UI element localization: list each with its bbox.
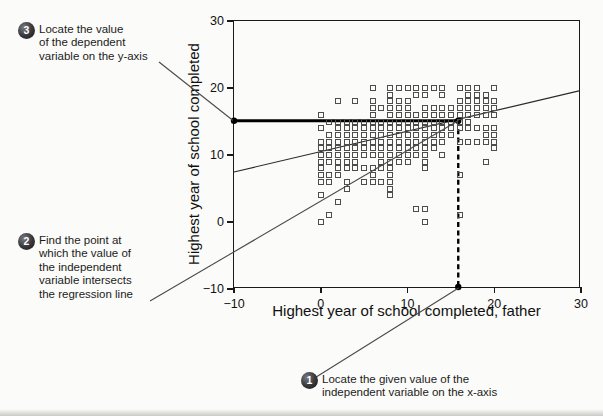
scatter-point [457, 172, 463, 178]
scatter-point [448, 119, 454, 125]
scatter-point [405, 85, 411, 91]
step-3-text: Locate the value of the dependent variab… [39, 22, 148, 63]
scatter-point [318, 172, 324, 178]
scatter-point [335, 139, 341, 145]
scatter-point [431, 105, 437, 111]
step-3-line-2: of the dependent [39, 36, 148, 49]
scatter-point [361, 165, 367, 171]
scatter-point [491, 125, 497, 131]
scatter-point [370, 145, 376, 151]
scatter-point [352, 98, 358, 104]
scatter-point [405, 145, 411, 151]
scatter-point [439, 125, 445, 131]
scatter-point [335, 165, 341, 171]
scatter-point [326, 139, 332, 145]
scatter-point [318, 192, 324, 198]
scatter-point [378, 139, 384, 145]
scatter-point [387, 172, 393, 178]
scatter-point [387, 92, 393, 98]
scatter-point [344, 145, 350, 151]
scatter-point [405, 132, 411, 138]
scatter-point [422, 139, 428, 145]
scatter-point [387, 152, 393, 158]
step-1-line-2: independent variable on the x-axis [322, 386, 497, 399]
scatter-point [335, 152, 341, 158]
scatter-point [491, 112, 497, 118]
y-tick-mark [227, 87, 233, 89]
scatter-point [405, 105, 411, 111]
scatter-point [465, 112, 471, 118]
scatter-point [457, 139, 463, 145]
scatter-point [318, 152, 324, 158]
scatter-point [448, 105, 454, 111]
scatter-point [422, 159, 428, 165]
scatter-point [326, 212, 332, 218]
scatter-point [387, 85, 393, 91]
scatter-point [361, 125, 367, 131]
scatter-point [439, 152, 445, 158]
scatter-point [431, 132, 437, 138]
scatter-point [370, 132, 376, 138]
scatter-point [457, 105, 463, 111]
scatter-point [491, 132, 497, 138]
scatter-point [483, 139, 489, 145]
scatter-point [422, 92, 428, 98]
scatter-point [335, 159, 341, 165]
scatter-point [344, 159, 350, 165]
step-2-badge: 2 [18, 233, 35, 250]
scatter-point [491, 145, 497, 151]
scatter-point [413, 119, 419, 125]
scatter-point [344, 119, 350, 125]
scatter-point [326, 172, 332, 178]
scatter-point [361, 179, 367, 185]
scatter-point [378, 105, 384, 111]
scatter-point [318, 219, 324, 225]
scatter-point [483, 112, 489, 118]
y-axis-value-dot [231, 118, 237, 124]
scatter-point [422, 119, 428, 125]
scatter-point [439, 132, 445, 138]
x-tick-mark [233, 287, 235, 293]
scatter-point [422, 219, 428, 225]
step-2-line-4: variable intersects [39, 274, 133, 287]
scatter-point [457, 98, 463, 104]
scatter-point [405, 98, 411, 104]
scatter-point [352, 139, 358, 145]
scatter-point [439, 139, 445, 145]
scatter-point [474, 85, 480, 91]
scatter-point [405, 139, 411, 145]
scatter-point [396, 159, 402, 165]
scatter-point [387, 98, 393, 104]
scatter-point [344, 139, 350, 145]
scatter-point [405, 112, 411, 118]
step-2-text: Find the point at which the value of the… [39, 233, 133, 301]
step-3-line-1: Locate the value [39, 23, 148, 36]
scatter-point [352, 132, 358, 138]
scatter-point [465, 125, 471, 131]
scatter-point [352, 119, 358, 125]
page-edge-shadow [0, 409, 603, 416]
scatter-point [344, 152, 350, 158]
scatter-point [405, 119, 411, 125]
scatter-point [378, 132, 384, 138]
scatter-point [361, 152, 367, 158]
scatter-point [413, 112, 419, 118]
scatter-point [352, 152, 358, 158]
scatter-point [387, 125, 393, 131]
scatter-point [396, 145, 402, 151]
scatter-point [370, 98, 376, 104]
scatter-point [352, 125, 358, 131]
step-2-line-1: Find the point at [39, 234, 133, 247]
plot-area: −1001020303020100−10 [233, 20, 580, 288]
scatter-point [422, 125, 428, 131]
scatter-point [370, 112, 376, 118]
scatter-point [483, 132, 489, 138]
scatter-point [448, 112, 454, 118]
scatter-point [335, 132, 341, 138]
scatter-point [413, 145, 419, 151]
scatter-point [431, 145, 437, 151]
scatter-point [335, 172, 341, 178]
scatter-point [326, 152, 332, 158]
scatter-point [405, 125, 411, 131]
scatter-point [422, 165, 428, 171]
